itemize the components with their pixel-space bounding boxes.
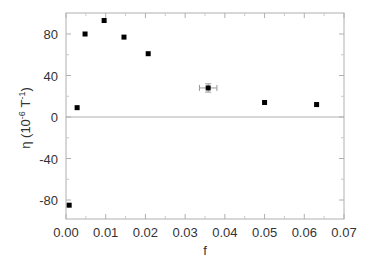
- data-point-square: [206, 85, 211, 90]
- y-axis-label: η (10-6 T-1): [17, 87, 33, 149]
- data-point-square: [102, 18, 107, 23]
- x-tick-label: 0.07: [331, 225, 356, 240]
- x-tick-label: 0.06: [292, 225, 317, 240]
- data-points: [67, 18, 319, 208]
- data-point-square: [75, 105, 80, 110]
- y-tick-label: -40: [39, 152, 58, 167]
- x-tick-label: 0.04: [212, 225, 237, 240]
- chart: 0.000.010.020.030.040.050.060.0780400-40…: [0, 0, 367, 266]
- y-tick-label: 0: [51, 110, 58, 125]
- x-tick-label: 0.01: [93, 225, 118, 240]
- plot-frame: [66, 13, 344, 219]
- x-tick-label: 0.02: [133, 225, 158, 240]
- x-tick-label: 0.00: [53, 225, 78, 240]
- axis-tick-labels: 0.000.010.020.030.040.050.060.0780400-40…: [39, 27, 356, 240]
- data-point-square: [121, 35, 126, 40]
- data-point-square: [83, 32, 88, 37]
- data-point-square: [262, 100, 267, 105]
- data-point-square: [146, 51, 151, 56]
- x-axis-label: f: [203, 243, 207, 258]
- y-tick-label: 40: [44, 69, 58, 84]
- y-tick-label: -80: [39, 193, 58, 208]
- plot-border: [66, 13, 344, 219]
- data-point-square: [314, 102, 319, 107]
- x-tick-label: 0.05: [252, 225, 277, 240]
- data-point-square: [67, 203, 72, 208]
- y-tick-label: 80: [44, 27, 58, 42]
- axis-ticks: [66, 13, 344, 219]
- x-tick-label: 0.03: [172, 225, 197, 240]
